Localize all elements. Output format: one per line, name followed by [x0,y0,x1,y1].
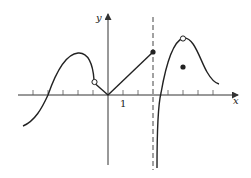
isolated-closed-dot [180,64,185,69]
left-segment [96,84,109,95]
function-graph: y x 1 [0,0,251,178]
linear-segment [108,52,153,95]
tick-label-one: 1 [120,98,126,109]
open-circle-left [92,79,97,84]
open-circle-peak [180,36,185,41]
y-axis-label: y [95,12,102,23]
closed-dot-asymptote [150,49,155,54]
x-axis-label: x [233,95,239,106]
right-curve [157,38,219,168]
x-axis-ticks [33,90,213,95]
left-curve [23,53,94,126]
